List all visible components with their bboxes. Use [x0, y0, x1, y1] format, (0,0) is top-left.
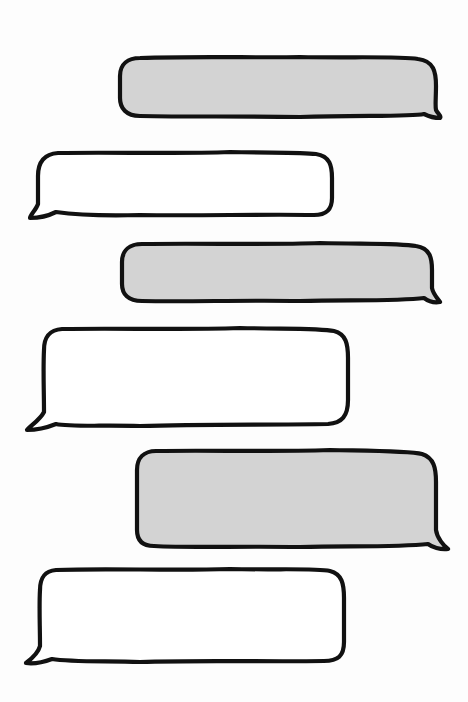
chat-bubble-right-1	[120, 57, 441, 118]
speech-bubble-shape	[26, 569, 344, 663]
speech-bubble-shape	[27, 328, 348, 430]
chat-bubble-left-4	[27, 328, 348, 430]
speech-bubble-shape	[30, 152, 332, 218]
chat-bubble-left-6	[26, 569, 344, 663]
speech-bubble-shape	[120, 57, 441, 118]
chat-bubbles-illustration	[0, 0, 468, 702]
chat-bubble-right-5	[137, 450, 448, 549]
speech-bubble-shape	[137, 450, 448, 549]
chat-bubble-left-2	[30, 152, 332, 218]
bubbles-canvas	[0, 0, 468, 702]
chat-bubble-right-3	[122, 243, 440, 302]
speech-bubble-shape	[122, 243, 440, 302]
